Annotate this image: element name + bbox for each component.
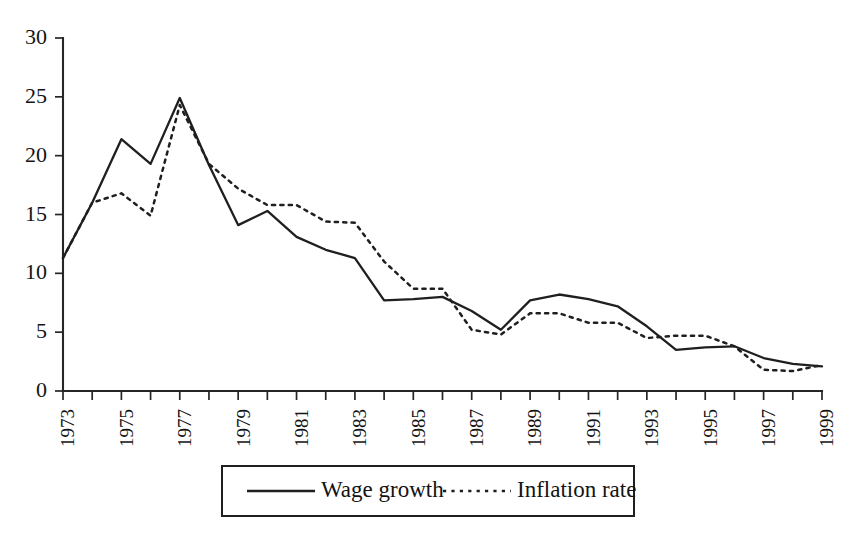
y-tick-label: 0	[36, 377, 47, 402]
x-tick-label: 1983	[349, 409, 370, 447]
x-tick-label: 1997	[758, 409, 779, 447]
x-tick-label: 1985	[408, 409, 429, 447]
series-line-wage-growth	[63, 98, 822, 366]
x-tick-label: 1995	[700, 409, 721, 447]
x-tick-label: 1991	[583, 409, 604, 447]
x-tick-label: 1981	[291, 409, 312, 447]
line-chart: 051015202530 197319751977197919811983198…	[0, 0, 853, 539]
x-axis-ticks: 1973197519771979198119831985198719891991…	[57, 391, 837, 447]
x-tick-label: 1979	[233, 409, 254, 447]
y-tick-label: 10	[25, 259, 47, 284]
x-tick-label: 1977	[174, 409, 195, 447]
x-tick-label: 1975	[116, 409, 137, 447]
y-tick-label: 25	[25, 83, 47, 108]
x-tick-label: 1993	[641, 409, 662, 447]
y-tick-label: 20	[25, 142, 47, 167]
y-tick-label: 5	[36, 318, 47, 343]
x-tick-label: 1987	[466, 409, 487, 447]
y-tick-label: 15	[25, 201, 47, 226]
legend-label-wage-growth: Wage growth	[321, 477, 444, 502]
y-tick-label: 30	[25, 24, 47, 49]
x-tick-label: 1989	[524, 409, 545, 447]
x-tick-label: 1999	[816, 409, 837, 447]
y-axis-ticks: 051015202530	[25, 24, 63, 402]
legend-label-inflation-rate: Inflation rate	[517, 477, 636, 502]
chart-figure: 051015202530 197319751977197919811983198…	[0, 0, 853, 539]
series-line-inflation-rate	[63, 105, 822, 371]
chart-legend: Wage growth Inflation rate	[222, 466, 636, 516]
x-tick-label: 1973	[57, 409, 78, 447]
